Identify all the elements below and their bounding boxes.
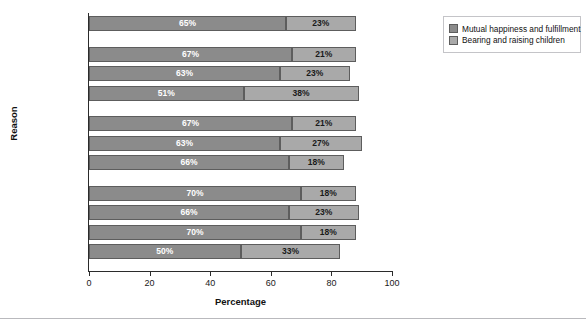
legend-item[interactable]: Mutual happiness and fulfillment xyxy=(449,24,574,34)
bar-segment-mutual-happiness[interactable]: 66% xyxy=(89,205,289,220)
plot-area: All Adults65%23%Black67%21%White63%23%Hi… xyxy=(89,13,392,271)
bar-segment-mutual-happiness[interactable]: 63% xyxy=(89,66,280,81)
bar-row: Catholic63%27% xyxy=(89,136,392,151)
bar-value-label: 70% xyxy=(187,228,204,237)
bar-value-label: 67% xyxy=(182,119,199,128)
bar-segment-mutual-happiness[interactable]: 70% xyxy=(89,186,301,201)
bar-segment-mutual-happiness[interactable]: 65% xyxy=(89,16,286,31)
bar-value-label: 67% xyxy=(182,50,199,59)
bar-segment-mutual-happiness[interactable]: 67% xyxy=(89,116,292,131)
chart-figure: Reason Percentage 020406080100 All Adult… xyxy=(0,0,586,327)
bar-value-label: 66% xyxy=(180,208,197,217)
legend-swatch-bearing-children xyxy=(449,36,458,45)
x-tick xyxy=(271,271,272,276)
bar-segment-bearing-children[interactable]: 27% xyxy=(280,136,362,151)
x-tick-label: 40 xyxy=(205,278,215,288)
bar-row: 18–2970%18% xyxy=(89,186,392,201)
bar-row: 30–4966%23% xyxy=(89,205,392,220)
bar-row: Hispanic51%38% xyxy=(89,86,392,101)
x-tick xyxy=(210,271,211,276)
bar-segment-mutual-happiness[interactable]: 66% xyxy=(89,155,289,170)
chart-legend: Mutual happiness and fulfillment Bearing… xyxy=(443,16,581,53)
bar-segment-bearing-children[interactable]: 21% xyxy=(292,47,356,62)
bar-segment-mutual-happiness[interactable]: 51% xyxy=(89,86,244,101)
bar-value-label: 63% xyxy=(176,69,193,78)
bar-value-label: 18% xyxy=(308,158,325,167)
bar-value-label: 18% xyxy=(320,189,337,198)
bar-segment-bearing-children[interactable]: 38% xyxy=(244,86,359,101)
bar-segment-bearing-children[interactable]: 18% xyxy=(289,155,344,170)
bar-segment-bearing-children[interactable]: 21% xyxy=(292,116,356,131)
legend-item[interactable]: Bearing and raising children xyxy=(449,35,574,45)
bar-value-label: 63% xyxy=(176,139,193,148)
bar-row: 50–6470%18% xyxy=(89,225,392,240)
bar-value-label: 33% xyxy=(282,247,299,256)
bar-segment-mutual-happiness[interactable]: 63% xyxy=(89,136,280,151)
bar-segment-bearing-children[interactable]: 18% xyxy=(301,225,356,240)
bar-value-label: 70% xyxy=(187,189,204,198)
bar-value-label: 23% xyxy=(312,19,329,28)
bar-segment-bearing-children[interactable]: 33% xyxy=(241,244,341,259)
x-tick xyxy=(331,271,332,276)
bar-segment-bearing-children[interactable]: 23% xyxy=(286,16,356,31)
x-tick-label: 60 xyxy=(266,278,276,288)
bar-segment-bearing-children[interactable]: 23% xyxy=(280,66,350,81)
bar-value-label: 21% xyxy=(315,119,332,128)
legend-label: Bearing and raising children xyxy=(462,35,565,45)
bar-segment-bearing-children[interactable]: 18% xyxy=(301,186,356,201)
bar-value-label: 51% xyxy=(158,89,175,98)
bar-row: Black67%21% xyxy=(89,47,392,62)
bar-value-label: 23% xyxy=(315,208,332,217)
x-tick xyxy=(150,271,151,276)
x-axis-line xyxy=(88,271,393,272)
bar-row: Protestant67%21% xyxy=(89,116,392,131)
bar-value-label: 21% xyxy=(315,50,332,59)
y-axis-title: Reason xyxy=(8,106,19,140)
x-tick xyxy=(392,271,393,276)
bar-row: White63%23% xyxy=(89,66,392,81)
bar-value-label: 18% xyxy=(320,228,337,237)
bar-value-label: 66% xyxy=(180,158,197,167)
bar-value-label: 65% xyxy=(179,19,196,28)
bar-segment-mutual-happiness[interactable]: 70% xyxy=(89,225,301,240)
x-axis-title: Percentage xyxy=(89,296,392,307)
bar-row: Secular66%18% xyxy=(89,155,392,170)
bar-row: 65+50%33% xyxy=(89,244,392,259)
x-tick-label: 80 xyxy=(326,278,336,288)
bar-segment-mutual-happiness[interactable]: 67% xyxy=(89,47,292,62)
bar-value-label: 38% xyxy=(293,89,310,98)
bar-row: All Adults65%23% xyxy=(89,16,392,31)
x-tick-label: 20 xyxy=(145,278,155,288)
x-tick-label: 100 xyxy=(384,278,399,288)
x-tick xyxy=(89,271,90,276)
bar-value-label: 27% xyxy=(312,139,329,148)
x-tick-label: 0 xyxy=(86,278,91,288)
legend-label: Mutual happiness and fulfillment xyxy=(462,24,581,34)
legend-swatch-mutual-happiness xyxy=(449,24,458,33)
bar-segment-bearing-children[interactable]: 23% xyxy=(289,205,359,220)
bar-value-label: 23% xyxy=(306,69,323,78)
bar-segment-mutual-happiness[interactable]: 50% xyxy=(89,244,241,259)
figure-bottom-rule xyxy=(0,318,586,319)
bar-value-label: 50% xyxy=(156,247,173,256)
